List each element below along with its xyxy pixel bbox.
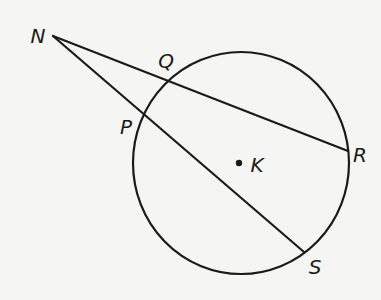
diagram-svg <box>0 0 381 300</box>
center-point-k <box>236 160 242 166</box>
geometry-diagram: N Q P R S K <box>0 0 381 300</box>
label-q: Q <box>158 51 174 71</box>
label-n: N <box>31 26 46 46</box>
secant-ns <box>53 36 304 252</box>
label-p: P <box>120 117 132 137</box>
label-k: K <box>250 155 263 175</box>
label-s: S <box>309 257 322 277</box>
secant-nr <box>53 36 348 151</box>
label-r: R <box>353 145 367 165</box>
